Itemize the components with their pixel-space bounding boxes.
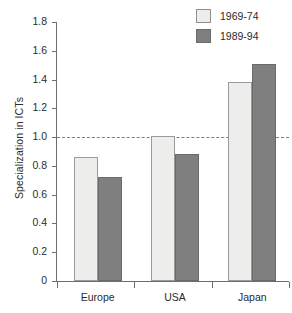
bar-europe-1969-74 [74,157,98,281]
legend: 1969-74 1989-94 [196,8,259,48]
y-axis-tick-label: 1.4 [32,73,47,85]
x-axis-separator [57,282,58,288]
bar-chart: Specialization in ICTs 00.20.40.60.81.01… [0,0,292,313]
x-axis-label-europe: Europe [81,291,115,303]
y-axis-tick-label: 0.8 [32,159,47,171]
x-axis-separator [134,282,135,288]
legend-item-series-2: 1989-94 [196,28,259,44]
bar-japan-1969-74 [228,82,252,281]
x-axis-separator [212,282,213,288]
y-axis-tick-label: 1.0 [32,130,47,142]
y-axis-tick-label: 0.6 [32,188,47,200]
bar-japan-1989-94 [252,64,276,281]
bar-usa-1969-74 [151,136,175,281]
x-axis-label-japan: Japan [238,291,267,303]
y-axis-tick-label: 1.8 [32,15,47,27]
legend-swatch-icon [196,29,211,43]
x-axis-label-usa: USA [164,291,186,303]
y-axis-tick-label: 0.4 [32,216,47,228]
x-axis-line [56,281,289,282]
bar-usa-1989-94 [175,154,199,281]
x-axis-separator [289,282,290,288]
legend-item-series-1: 1969-74 [196,8,259,24]
legend-swatch-icon [196,9,211,23]
bars-layer [57,22,289,281]
bar-europe-1989-94 [98,177,122,281]
y-axis-tick-label: 0.2 [32,245,47,257]
y-axis-tick-label: 1.6 [32,44,47,56]
legend-label: 1989-94 [220,30,259,42]
y-axis-tick-label: 0 [41,274,47,286]
legend-label: 1969-74 [220,10,259,22]
y-axis-tick-label: 1.2 [32,101,47,113]
y-axis-title: Specialization in ICTs [13,43,25,253]
